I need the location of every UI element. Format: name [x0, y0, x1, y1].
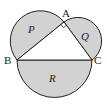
geometry-figure: A B C P Q R — [0, 0, 107, 108]
label-region-r: R — [48, 72, 56, 84]
label-point-c: C — [94, 54, 101, 66]
label-region-p: P — [27, 23, 35, 35]
label-point-b: B — [4, 54, 11, 66]
label-region-q: Q — [81, 30, 89, 42]
label-point-a: A — [62, 7, 70, 19]
diagram: A B C P Q R — [0, 0, 107, 108]
